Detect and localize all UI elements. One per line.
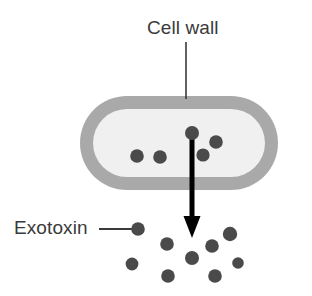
diagram-canvas: [0, 0, 312, 296]
toxin-particle-outside: [185, 251, 199, 265]
toxin-particle-outside: [126, 258, 139, 271]
cell-interior: [93, 109, 265, 177]
cell-wall-label: Cell wall: [147, 17, 219, 39]
toxin-particle-inside: [196, 148, 209, 161]
exotoxin-label: Exotoxin: [14, 217, 88, 239]
toxin-particle-outside: [223, 227, 237, 241]
toxin-particle-outside: [161, 269, 175, 283]
toxin-particle-outside: [160, 237, 174, 251]
secretion-arrow-head: [184, 216, 201, 238]
toxin-particle-outside: [208, 269, 222, 283]
toxin-particle-outside: [232, 257, 244, 269]
toxin-particle-outside: [205, 239, 219, 253]
extracellular-toxin-group: [126, 222, 244, 283]
toxin-particle-inside: [209, 135, 223, 149]
toxin-particle-outside-labeled: [131, 222, 145, 236]
toxin-particle-inside: [153, 150, 167, 164]
exotoxin-diagram: Cell wall Exotoxin: [0, 0, 312, 296]
toxin-particle-inside: [130, 149, 144, 163]
toxin-particle-inside: [185, 126, 199, 140]
